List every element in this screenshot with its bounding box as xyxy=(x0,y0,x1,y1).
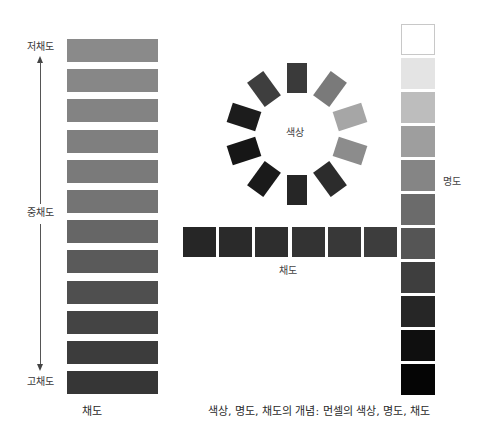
value-swatch xyxy=(401,58,435,89)
chroma-bar xyxy=(67,220,158,243)
mid-chroma-label: 중채도 xyxy=(27,207,54,219)
high-chroma-label: 고채도 xyxy=(27,376,54,388)
low-chroma-label: 저채도 xyxy=(27,41,54,53)
arrow-line-upper xyxy=(40,62,41,204)
chroma-row-label: 채도 xyxy=(279,265,297,277)
value-swatch xyxy=(401,262,435,293)
chroma-bar xyxy=(67,311,158,334)
value-swatch xyxy=(401,92,435,123)
hue-swatch xyxy=(333,103,368,131)
arrow-line-lower xyxy=(40,224,41,364)
chroma-row-swatch xyxy=(219,227,252,257)
value-swatch xyxy=(401,330,435,361)
value-swatch xyxy=(401,228,435,259)
value-swatch xyxy=(401,194,435,225)
value-label: 명도 xyxy=(443,176,461,188)
hue-label: 색상 xyxy=(286,127,304,139)
chroma-bar xyxy=(67,190,158,213)
hue-swatch xyxy=(313,161,347,197)
chroma-bar xyxy=(67,341,158,364)
chroma-row-swatch xyxy=(255,227,288,257)
chroma-bar xyxy=(67,281,158,304)
figure-caption: 색상, 명도, 채도의 개념: 먼셀의 색상, 명도, 채도 xyxy=(208,405,430,419)
chroma-row-swatch xyxy=(292,227,325,257)
value-swatch xyxy=(401,160,435,191)
hue-swatch xyxy=(226,137,261,165)
chroma-bar xyxy=(67,160,158,183)
chroma-bar xyxy=(67,99,158,122)
value-swatch xyxy=(401,296,435,327)
chroma-row-swatch xyxy=(328,227,361,257)
value-swatch xyxy=(401,24,435,55)
hue-swatch xyxy=(287,63,307,93)
hue-swatch xyxy=(333,137,368,165)
chroma-scale-caption: 채도 xyxy=(82,405,102,419)
chroma-bar xyxy=(67,39,158,62)
chroma-bar xyxy=(67,250,158,273)
chroma-bar xyxy=(67,69,158,92)
hue-swatch xyxy=(287,175,307,205)
chroma-bar xyxy=(67,130,158,153)
chroma-row-swatch xyxy=(183,227,216,257)
hue-swatch xyxy=(313,71,347,107)
hue-swatch xyxy=(226,103,261,131)
hue-swatch xyxy=(247,71,281,107)
value-swatch xyxy=(401,364,435,395)
chroma-row-swatch xyxy=(364,227,397,257)
hue-swatch xyxy=(247,161,281,197)
arrow-down-icon xyxy=(37,364,43,371)
value-swatch xyxy=(401,126,435,157)
chroma-bar xyxy=(67,371,158,394)
